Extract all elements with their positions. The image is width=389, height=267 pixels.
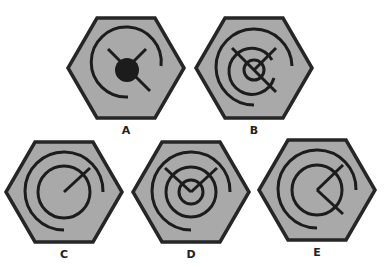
hexagon-figure-e [255, 136, 379, 244]
option-b[interactable]: B [192, 14, 316, 138]
hexagon-figure-c [2, 138, 126, 246]
option-a[interactable]: A [64, 14, 188, 138]
hexagon-figure-a [64, 14, 188, 122]
hexagon-figure-b [192, 14, 316, 122]
option-e[interactable]: E [255, 136, 379, 260]
option-d[interactable]: D [129, 138, 253, 262]
option-label-d: D [129, 248, 253, 261]
option-c[interactable]: C [2, 138, 126, 262]
option-label-c: C [2, 248, 126, 261]
option-label-e: E [255, 246, 379, 259]
option-label-a: A [64, 124, 188, 137]
hexagon-figure-d [129, 138, 253, 246]
